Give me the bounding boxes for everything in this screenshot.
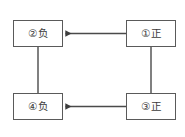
node-label-2: ②负 xyxy=(28,28,47,39)
node-box-4: ④负 xyxy=(13,93,63,120)
node-box-3: ③正 xyxy=(126,93,176,120)
node-box-1: ①正 xyxy=(126,20,176,47)
node-label-4: ④负 xyxy=(28,101,47,112)
diagram-canvas: ②负 ①正 ④负 ③正 xyxy=(0,0,185,137)
node-label-1: ①正 xyxy=(141,28,160,39)
node-label-3: ③正 xyxy=(141,101,160,112)
node-box-2: ②负 xyxy=(13,20,63,47)
